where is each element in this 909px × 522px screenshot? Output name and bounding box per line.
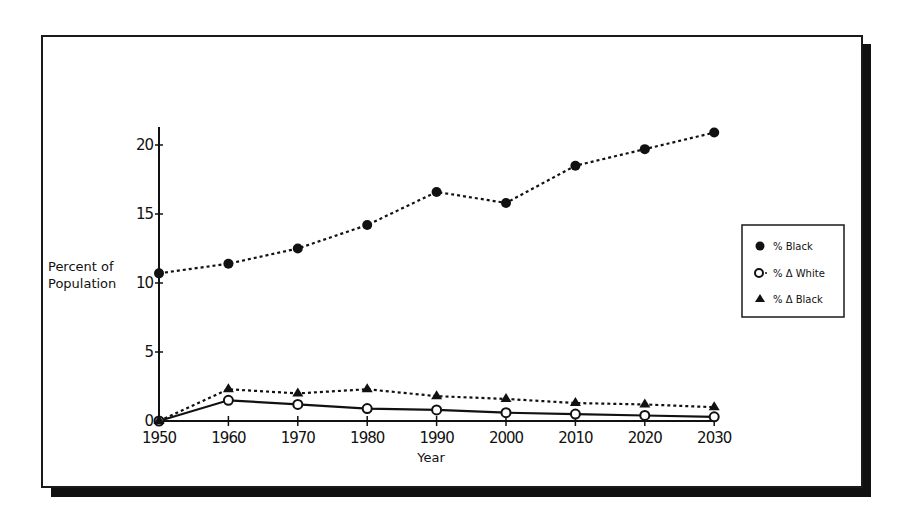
legend-label: % Δ White [773,268,825,279]
y-tick-label: 5 [144,343,153,361]
filled-circle-marker [432,187,442,197]
open-circle-marker [640,411,649,420]
series-group [154,128,720,426]
open-circle-icon [755,269,763,277]
series-line [159,133,714,274]
y-tick-label: 0 [144,412,153,430]
y-tick-label: 15 [136,205,154,223]
open-circle-marker [571,410,580,419]
filled-circle-marker [223,259,233,269]
x-tick-label: 1980 [350,429,385,447]
filled-circle-marker [640,144,650,154]
open-circle-marker [710,412,719,421]
y-tick-label: 10 [136,274,154,292]
y-axis-title-line-2: Population [48,276,116,291]
filled-triangle-marker [570,397,581,406]
y-axis-title-line-1: Percent of [48,259,114,274]
filled-triangle-marker [639,398,650,407]
x-tick-label: 2030 [697,429,732,447]
filled-circle-marker [154,268,164,278]
filled-triangle-marker [501,393,512,402]
filled-circle-marker [709,128,719,138]
open-circle-marker [363,404,372,413]
filled-circle-marker [362,220,372,230]
x-tick-label: 1970 [281,429,316,447]
x-tick-label: 1960 [211,429,246,447]
line-chart: 0510152019501960197019801990200020102020… [0,0,909,522]
filled-circle-marker [501,198,511,208]
y-tick-label: 20 [136,136,154,154]
dot-icon [765,272,767,274]
legend-label: % Δ Black [773,294,823,305]
x-tick-label: 2020 [628,429,663,447]
x-tick-label: 2010 [558,429,593,447]
series-black [154,128,719,279]
filled-triangle-marker [431,390,442,399]
legend: % Black % Δ White % Δ Black [742,225,844,317]
x-tick-label: 1950 [142,429,177,447]
filled-triangle-marker [223,383,234,392]
filled-circle-marker [570,161,580,171]
filled-circle-icon [756,242,765,251]
x-tick-label: 2000 [489,429,524,447]
filled-triangle-marker [292,387,303,396]
open-circle-marker [502,408,511,417]
open-circle-marker [224,396,233,405]
open-circle-marker [432,405,441,414]
open-circle-marker [293,400,302,409]
x-axis-title: Year [416,450,445,465]
x-tick-label: 1990 [420,429,455,447]
filled-triangle-marker [362,383,373,392]
legend-label: % Black [773,241,813,252]
filled-circle-marker [293,244,303,254]
filled-triangle-marker [709,401,720,410]
y-axis-title: Percent of Population [48,259,116,291]
